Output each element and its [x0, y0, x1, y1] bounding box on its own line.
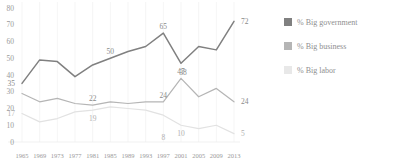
svg-text:2005: 2005: [192, 152, 205, 159]
svg-text:1977: 1977: [69, 152, 83, 159]
svg-text:60: 60: [7, 37, 15, 46]
svg-text:50: 50: [7, 54, 15, 63]
svg-text:80: 80: [7, 4, 15, 13]
svg-text:8: 8: [161, 133, 165, 142]
y-axis-tick-labels: 01020304050607080: [7, 4, 15, 147]
svg-text:0: 0: [10, 138, 14, 147]
svg-text:30: 30: [7, 87, 15, 96]
svg-text:1973: 1973: [51, 152, 64, 159]
legend-item-big-government[interactable]: % Big government: [284, 10, 402, 34]
svg-text:1985: 1985: [104, 152, 117, 159]
svg-text:2013: 2013: [228, 152, 241, 159]
svg-text:65: 65: [160, 22, 168, 31]
svg-text:10: 10: [7, 121, 15, 130]
legend-item-big-business[interactable]: % Big business: [284, 34, 402, 58]
legend-item-big-labor[interactable]: % Big labor: [284, 58, 402, 82]
svg-text:19: 19: [89, 114, 97, 123]
svg-text:35: 35: [8, 79, 16, 88]
legend-swatch-big-business: [284, 42, 292, 50]
legend-swatch-big-government: [284, 18, 292, 26]
svg-text:70: 70: [7, 20, 15, 29]
svg-text:5: 5: [241, 129, 245, 138]
x-axis-tick-labels: 1965196919731977198119851989199319972001…: [16, 152, 241, 159]
svg-text:2001: 2001: [175, 152, 188, 159]
svg-text:24: 24: [241, 97, 249, 106]
svg-text:1989: 1989: [122, 152, 135, 159]
chart-container: 01020304050607080 1965196919731977198119…: [0, 0, 404, 166]
svg-text:1969: 1969: [33, 152, 46, 159]
svg-text:1965: 1965: [16, 152, 29, 159]
svg-text:72: 72: [241, 17, 249, 26]
svg-text:17: 17: [8, 109, 16, 118]
svg-text:1981: 1981: [86, 152, 99, 159]
svg-text:10: 10: [177, 129, 185, 138]
chart-legend: % Big government % Big business % Big la…: [284, 10, 402, 82]
svg-text:50: 50: [107, 47, 115, 56]
legend-label-big-labor: % Big labor: [297, 66, 336, 75]
legend-label-big-government: % Big government: [297, 18, 357, 27]
svg-text:38: 38: [179, 68, 187, 77]
legend-swatch-big-labor: [284, 66, 292, 74]
legend-label-big-business: % Big business: [297, 42, 346, 51]
svg-text:1997: 1997: [157, 152, 171, 159]
svg-text:2009: 2009: [210, 152, 223, 159]
svg-text:22: 22: [89, 94, 97, 103]
svg-text:1993: 1993: [139, 152, 152, 159]
svg-text:24: 24: [160, 91, 168, 100]
